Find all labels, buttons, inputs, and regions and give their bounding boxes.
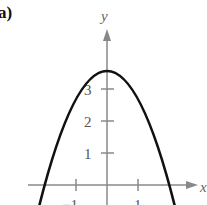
y-axis-arrow-icon xyxy=(103,29,111,41)
y-tick-label-2: 2 xyxy=(84,114,92,130)
x-tick-label-neg1: −1 xyxy=(62,197,78,205)
x-axis-label: x xyxy=(199,179,207,195)
y-axis-label: y xyxy=(99,8,108,24)
x-axis-arrow-icon xyxy=(186,181,198,189)
x-tick-label-1: 1 xyxy=(134,197,142,205)
parabola-chart: x y 1 2 3 −1 1 xyxy=(0,0,207,205)
y-tick-label-1: 1 xyxy=(84,146,92,162)
